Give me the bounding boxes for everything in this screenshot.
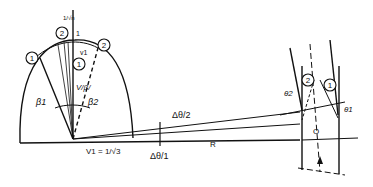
label-theta1: θ1 <box>344 105 353 114</box>
label-top-axis-one: 1 <box>76 30 80 37</box>
label-circle-2-top: 2 <box>60 29 65 38</box>
label-v1-top: v1 <box>80 49 88 56</box>
label-v-beta: V/β/ <box>76 83 91 92</box>
label-circle-1-inner: 1 <box>77 60 82 69</box>
arrow-up-icon <box>317 156 323 164</box>
label-v1-bottom: V1 = 1/√3 <box>86 147 121 156</box>
label-circle-1-channel: 1 <box>328 81 333 90</box>
label-delta-theta-full: Δθ/1 <box>150 151 169 161</box>
label-delta-theta-half: Δθ/2 <box>172 110 191 120</box>
label-circle-2-right: 2 <box>102 41 107 50</box>
label-circle-2-channel: 2 <box>306 76 311 85</box>
label-top-axis-mark: 1/√n <box>63 15 75 21</box>
label-beta2: β2 <box>87 97 98 107</box>
label-beta1: β1 <box>35 97 46 107</box>
label-origin: O <box>313 127 319 136</box>
ray-delta-theta <box>73 124 300 139</box>
label-circle-1-left: 1 <box>30 54 35 63</box>
top-arc <box>35 42 98 58</box>
channel-left-outer <box>290 48 302 110</box>
diagram-canvas: 1 2 2 1 2 1 1/√n 1 v1 V/β/ β1 β2 V1 = 1/… <box>0 0 373 187</box>
label-radius: R <box>210 140 216 149</box>
label-theta2: θ2 <box>284 89 293 98</box>
